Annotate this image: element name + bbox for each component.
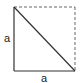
bottom-side-label: a — [41, 72, 48, 83]
square-diagonal-diagram: a a — [0, 0, 81, 83]
left-side-label: a — [4, 32, 11, 44]
diagonal — [14, 7, 75, 71]
